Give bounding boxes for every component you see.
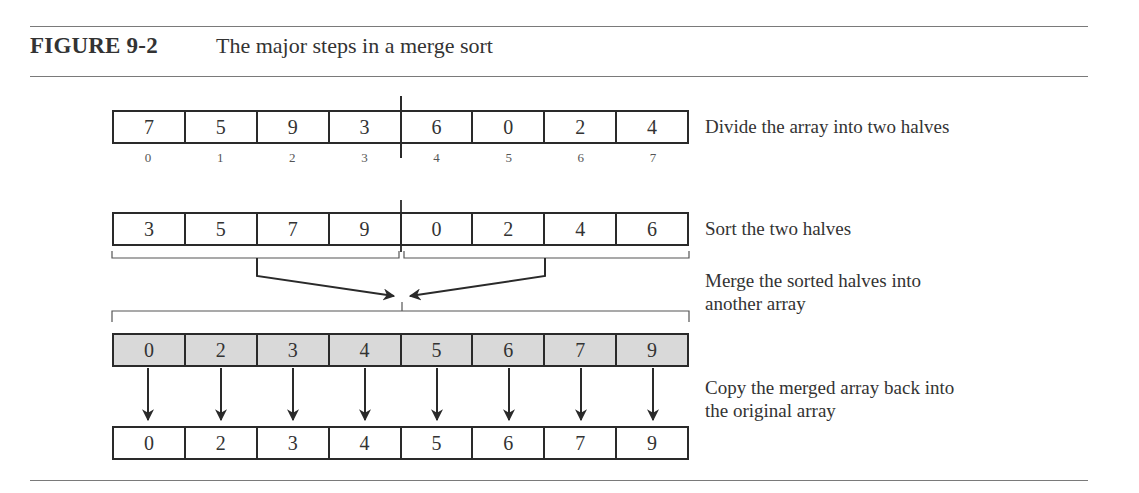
right-half-bracket (404, 251, 689, 258)
merge-arrow-right (410, 258, 545, 296)
merged-bracket (112, 311, 689, 322)
merge-arrow-left (257, 258, 394, 296)
diagram-connectors (0, 0, 1139, 493)
left-half-bracket (112, 251, 399, 258)
